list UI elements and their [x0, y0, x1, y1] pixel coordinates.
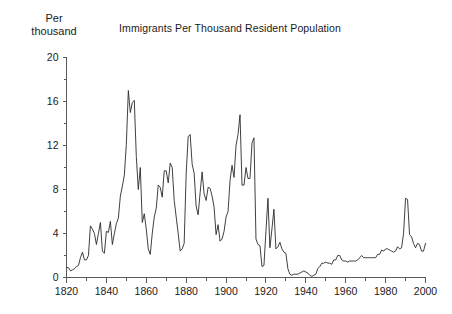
- y-tick-label: 4: [53, 227, 59, 239]
- x-tick-label: 1960: [334, 285, 358, 297]
- y-tick-label: 0: [53, 271, 59, 283]
- series-line: [67, 91, 426, 277]
- x-tick-label: 2000: [414, 285, 438, 297]
- x-tick-label: 1840: [95, 285, 119, 297]
- chart-container: Per thousand Immigrants Per Thousand Res…: [0, 0, 452, 314]
- y-tick-label: 20: [47, 51, 59, 63]
- x-tick-label: 1820: [55, 285, 79, 297]
- x-tick-label: 1940: [294, 285, 318, 297]
- x-tick-label: 1900: [214, 285, 238, 297]
- data-series: [67, 91, 426, 277]
- y-tick-label: 12: [47, 139, 59, 151]
- line-chart-plot: 048121620 182018401860188019001920194019…: [0, 0, 452, 314]
- x-tick-label: 1980: [374, 285, 398, 297]
- y-axis: 048121620: [47, 51, 67, 283]
- x-tick-label: 1880: [174, 285, 198, 297]
- x-tick-label: 1920: [254, 285, 278, 297]
- x-tick-label: 1860: [135, 285, 159, 297]
- y-tick-label: 16: [47, 95, 59, 107]
- y-tick-label: 8: [53, 183, 59, 195]
- x-axis: 1820184018601880190019201940196019802000: [55, 278, 438, 297]
